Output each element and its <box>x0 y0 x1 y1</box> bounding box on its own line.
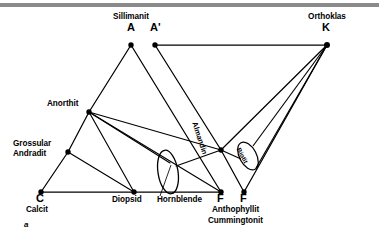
edge-a-to-anorthit <box>89 45 131 112</box>
node-grossular-andradit[interactable] <box>65 149 70 154</box>
node-diopsid[interactable] <box>131 189 136 194</box>
node-k[interactable] <box>324 42 330 48</box>
label-anorthit: Anorthit <box>47 100 78 109</box>
vertex-label-f: F <box>217 193 224 204</box>
node-a[interactable] <box>128 42 133 47</box>
hornblende-ellipse <box>155 149 182 196</box>
edge-anorthit-to-grossular <box>68 112 89 152</box>
edge-k-to-almandin <box>221 45 327 150</box>
label-cummingtonit: Cummingtonit <box>208 217 263 226</box>
vertex-label-a: A <box>127 22 135 33</box>
hornblende-field <box>155 149 182 196</box>
vertex-label-c: C <box>36 193 44 204</box>
label-grossular: Grossular <box>13 140 51 149</box>
tie-hornblende-almandin <box>176 150 221 166</box>
akf-triangle-edges <box>155 45 327 192</box>
vertex-label-f-prime: F <box>240 193 247 204</box>
tie-anorthit-diopsid <box>89 112 134 192</box>
label-calcit: Calcit <box>26 206 48 215</box>
panel-label: a <box>24 221 28 229</box>
tie-k-biotit-upper <box>253 45 327 146</box>
node-a-prime[interactable] <box>152 42 157 47</box>
tie-k-biotit-lower <box>256 45 327 168</box>
label-hornblende: Hornblende <box>157 196 202 205</box>
tie-grossular-diopsid <box>68 152 134 192</box>
edge-a-to-f <box>131 45 221 192</box>
node-almandin[interactable] <box>218 147 223 152</box>
node-anorthit[interactable] <box>86 109 91 114</box>
label-anthophyllit: Anthophyllit <box>212 206 259 215</box>
vertex-label-k: K <box>322 22 330 33</box>
vertex-label-a-prime: A' <box>150 22 161 33</box>
figure-root: Sillimanit A A' Orthoklas K Anorthit Gro… <box>0 0 379 237</box>
label-andradit: Andradit <box>13 150 46 159</box>
acf-triangle-edges <box>41 45 221 192</box>
label-diopsid: Diopsid <box>112 196 142 205</box>
